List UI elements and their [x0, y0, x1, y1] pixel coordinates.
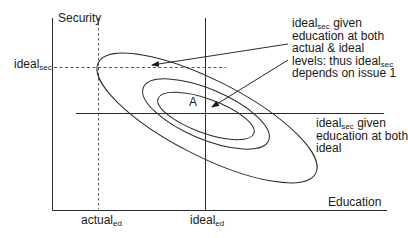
y-tick-base: ideal	[14, 57, 39, 71]
annotation-top-line-5: depends on issue 1	[292, 67, 396, 80]
x-tick-actual-sub: ed	[113, 219, 122, 228]
annotation-right-line-1: idealsec given	[316, 117, 408, 130]
annotation-top-line-1: idealsec given	[292, 17, 396, 30]
annotation-top-l1-base: ideal	[292, 16, 317, 30]
x-axis-label: Education	[328, 196, 381, 209]
arrow-to-ideal-sec-both-levels	[152, 44, 288, 65]
annotation-ideal-sec-both-ideal: idealsec given education at both ideal	[316, 117, 408, 155]
annotation-right-line-3: ideal	[316, 142, 408, 155]
annotation-right-l1-base: ideal	[316, 116, 341, 130]
annotation-ideal-sec-both-levels: idealsec given education at both actual …	[292, 17, 396, 80]
annotation-right-l1-rest: given	[354, 116, 386, 130]
x-tick-ideal-ed: idealed	[190, 214, 224, 227]
x-tick-actual-base: actual	[81, 213, 113, 227]
point-a-label: A	[189, 96, 197, 109]
x-tick-ideal-base: ideal	[190, 213, 215, 227]
annotation-top-l1-rest: given	[330, 16, 362, 30]
y-tick-sub: sec	[39, 63, 51, 72]
x-tick-ideal-sub: ed	[215, 219, 224, 228]
x-tick-actual-ed: actualed	[81, 214, 122, 227]
y-axis-label: Security	[58, 12, 101, 25]
y-tick-ideal-sec: idealsec	[14, 58, 52, 71]
